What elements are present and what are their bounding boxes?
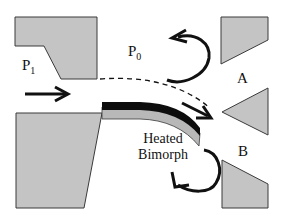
heated-bimorph-label: Heated Bimorph: [123, 131, 203, 163]
outlet-b-lower-wall: [222, 160, 268, 208]
splitter-wedge: [222, 88, 268, 135]
diagram-drawing: [0, 0, 285, 218]
outlet-b-label: B: [238, 144, 248, 159]
outlet-a-label: A: [237, 71, 248, 86]
diagram-canvas: P1 P0 A B Heated Bimorph: [0, 0, 285, 218]
heated-bimorph-label-line2: Bimorph: [123, 147, 203, 163]
inlet-flow-arrow-icon: [25, 87, 68, 101]
outlet-a-upper-wall: [221, 17, 268, 64]
heated-bimorph-label-line1: Heated: [123, 131, 203, 147]
recirculation-arrow-top-icon: [167, 30, 209, 82]
lower-left-block: [16, 113, 102, 208]
ambient-pressure-label: P0: [128, 44, 141, 59]
inlet-pressure-label: P1: [22, 58, 35, 73]
